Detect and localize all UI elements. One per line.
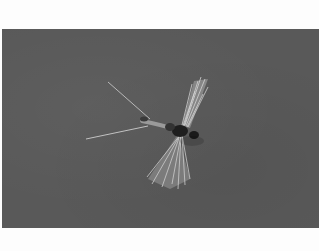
fly-illustration	[2, 29, 319, 228]
fly-photo	[2, 29, 319, 228]
